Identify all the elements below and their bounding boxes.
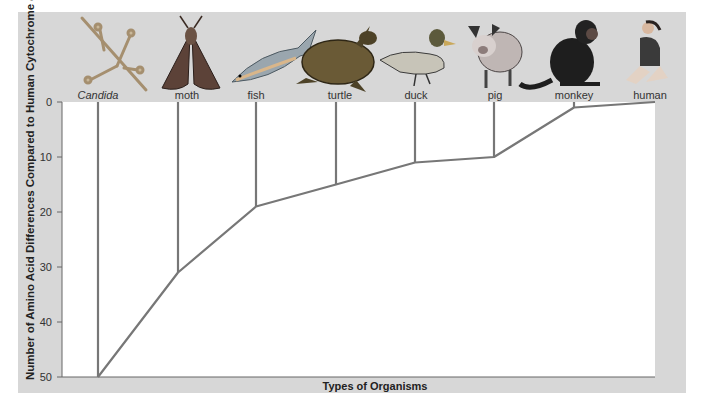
phylogeny-line-chart — [0, 0, 701, 412]
difference-curve — [98, 102, 655, 377]
